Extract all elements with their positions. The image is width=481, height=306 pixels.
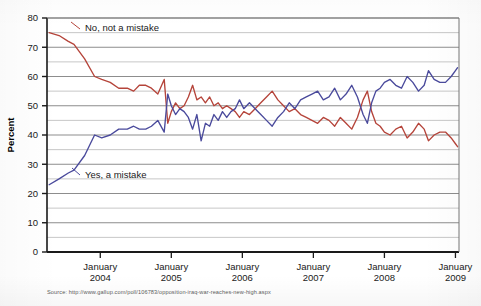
x-tick-label-year: 2005 (161, 272, 182, 283)
y-tick-labels: 01020304050607080 (27, 12, 38, 257)
y-axis-title: Percent (5, 117, 16, 153)
x-tick-label-year: 2004 (90, 272, 111, 283)
x-tick-label-month: January (439, 261, 473, 272)
x-tick-label-year: 2008 (374, 272, 395, 283)
x-tick-label-month: January (154, 261, 188, 272)
x-tick-label-year: 2006 (232, 272, 253, 283)
source-caption: Source: http://www.gallup.com/poll/10678… (47, 289, 271, 295)
x-tick-label-month: January (296, 261, 330, 272)
y-tick-label: 20 (27, 188, 38, 199)
annotation-yes-a-mistake: Yes, a mistake (85, 169, 146, 180)
x-tick-label-year: 2009 (445, 272, 466, 283)
y-tick-label: 60 (27, 71, 38, 82)
x-tick-labels: January2004January2005January2006January… (83, 261, 472, 283)
y-tick-label: 0 (33, 246, 38, 257)
y-tick-label: 70 (27, 42, 38, 53)
y-tick-label: 30 (27, 159, 38, 170)
y-tick-label: 10 (27, 217, 38, 228)
gallup-iraq-war-line-chart: No, not a mistake Yes, a mistake Percent… (0, 0, 481, 306)
y-tick-label: 80 (27, 12, 38, 23)
y-tick-label: 50 (27, 100, 38, 111)
x-tick-label-year: 2007 (303, 272, 324, 283)
x-tick-label-month: January (368, 261, 402, 272)
chart-canvas: No, not a mistake Yes, a mistake Percent… (0, 0, 481, 306)
y-tick-label: 40 (27, 129, 38, 140)
annotation-no-not-a-mistake: No, not a mistake (85, 22, 159, 33)
x-tick-label-month: January (83, 261, 117, 272)
y-axis-title-group: Percent (5, 117, 16, 153)
x-tick-label-month: January (225, 261, 259, 272)
